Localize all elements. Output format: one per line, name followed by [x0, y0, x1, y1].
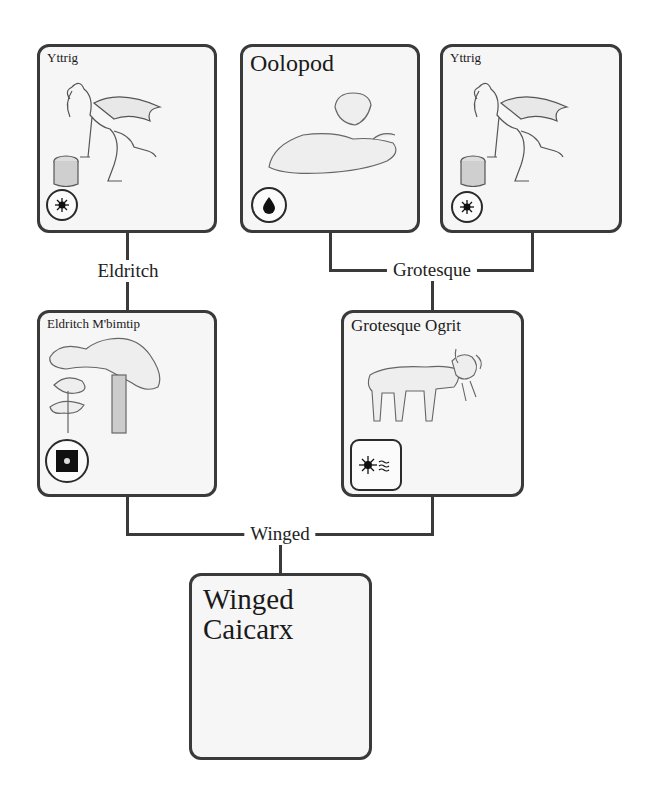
sun-icon — [459, 199, 475, 215]
water-element-badge — [251, 187, 287, 223]
creature-name: Eldritch M'bimtip — [47, 317, 140, 331]
connector-label-grotesque: Grotesque — [387, 259, 477, 281]
dark-square-icon — [56, 450, 78, 472]
creature-name: Yttrig — [450, 51, 481, 65]
mushroom-creature-illustration — [46, 335, 176, 435]
connector-ogrit-down — [431, 496, 434, 535]
winged-beast-illustration — [457, 69, 577, 187]
creature-card-eldritch-mbimtip[interactable]: Eldritch M'bimtip — [37, 310, 217, 497]
creature-name: Winged Caicarx — [203, 584, 294, 645]
sun-icon — [54, 197, 70, 213]
void-element-badge — [45, 439, 89, 483]
creature-card-yttrig-left[interactable]: Yttrig — [37, 44, 217, 233]
connector-yttrig2-down — [531, 232, 534, 271]
creature-card-winged-caicarx[interactable]: Winged Caicarx — [189, 573, 372, 760]
winged-beast-illustration — [50, 69, 170, 187]
creature-name-line1: Winged — [203, 583, 294, 615]
sun-element-badge — [451, 191, 483, 223]
creature-card-yttrig-right[interactable]: Yttrig — [440, 44, 622, 233]
sun-element-badge — [46, 189, 78, 221]
ox-creature-illustration — [366, 347, 486, 427]
creature-name-line2: Caicarx — [203, 613, 293, 645]
creature-card-grotesque-ogrit[interactable]: Grotesque Ogrit — [341, 310, 524, 497]
creature-name: Yttrig — [47, 51, 78, 65]
sun-water-element-badge — [350, 439, 402, 491]
creature-card-oolopod[interactable]: Oolopod — [240, 44, 420, 233]
creature-name: Oolopod — [250, 51, 334, 76]
creature-name: Grotesque Ogrit — [351, 317, 461, 335]
connector-label-eldritch: Eldritch — [91, 260, 164, 282]
sun-waves-icon — [359, 455, 393, 475]
water-drop-icon — [262, 196, 276, 214]
connector-oolopod-down — [329, 232, 332, 271]
connector-label-winged: Winged — [244, 523, 315, 545]
connector-eldritch-down — [126, 496, 129, 535]
lumpy-beast-illustration — [263, 87, 403, 177]
